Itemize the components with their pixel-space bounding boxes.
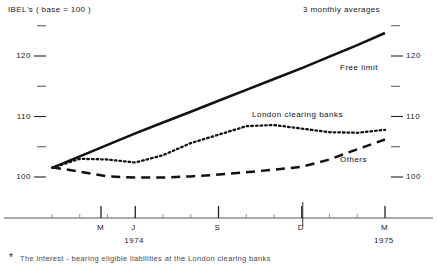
- series-line-free-limit: [52, 33, 385, 168]
- footnote-marker: *: [9, 252, 13, 263]
- x-tick-label-1: J: [131, 223, 136, 232]
- x-year-label-1975: 1975: [374, 236, 394, 245]
- x-tick-label-3: D: [298, 223, 304, 232]
- annotation-others: Others: [340, 155, 367, 164]
- footnote-text: The interest - bearing eligible liabilit…: [20, 254, 271, 263]
- y-tick-label-right-100: 100: [406, 172, 432, 181]
- y-tick-label-left-100: 100: [5, 172, 31, 181]
- y-tick-label-left-120: 120: [5, 51, 31, 60]
- chart-page: IBEL's ( base = 100 ) 3 monthly averages…: [0, 0, 437, 264]
- x-tick-label-2: S: [215, 223, 221, 232]
- annotation-london-clearing-banks: London clearing banks: [252, 110, 343, 119]
- x-year-label-1974: 1974: [124, 236, 144, 245]
- annotation-free-limit: Free limit: [340, 63, 378, 72]
- y-tick-label-left-110: 110: [5, 112, 31, 121]
- x-tick-label-0: M: [97, 223, 104, 232]
- y-tick-label-right-120: 120: [406, 51, 432, 60]
- x-tick-label-4: M: [381, 223, 388, 232]
- series-lines: [52, 33, 385, 178]
- y-tick-label-right-110: 110: [406, 112, 432, 121]
